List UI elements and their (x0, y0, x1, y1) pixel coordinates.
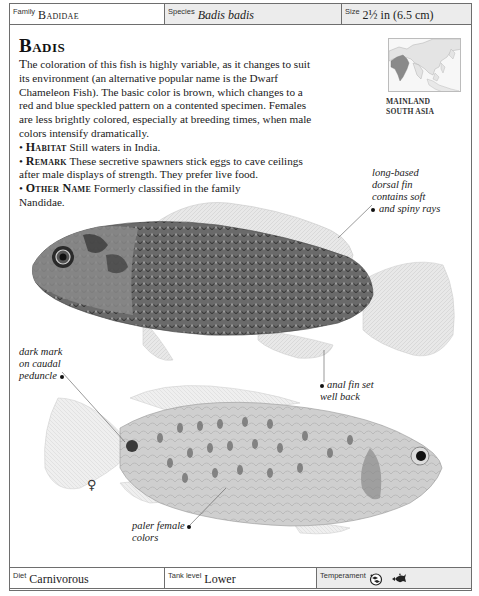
annotation-line: and spiny rays (372, 203, 440, 215)
temperament-icons (369, 573, 407, 586)
annotation-text: and spiny rays (379, 203, 440, 214)
annotation-line: well back (320, 391, 374, 403)
tank-level-label: Tank level (168, 571, 201, 580)
community-fish-icon (369, 573, 383, 586)
tank-level-cell: Tank level Lower (165, 568, 317, 588)
pointer-dot (371, 208, 375, 212)
annotation-dorsal-fin: long-based dorsal fin contains soft and … (372, 167, 440, 215)
annotation-text: anal fin set (327, 379, 374, 390)
annotation-female-colors: paler female colors (132, 520, 191, 544)
temperament-cell: Temperament (317, 568, 471, 588)
annotation-line: colors (132, 532, 191, 544)
tank-level-value: Lower (204, 572, 235, 587)
annotation-anal-fin: anal fin set well back (320, 379, 374, 403)
annotation-text: peduncle (19, 370, 57, 381)
temperament-label: Temperament (320, 571, 366, 580)
annotation-line: on caudal (19, 358, 64, 370)
annotation-leaders (0, 0, 479, 596)
annotation-line: long-based (372, 167, 440, 179)
annotation-line: paler female (132, 520, 191, 532)
territorial-fish-icon (391, 573, 407, 585)
annotation-caudal-mark: dark mark on caudal peduncle (19, 346, 64, 382)
female-symbol-icon: ♀ (87, 477, 97, 492)
footer-bar: Diet Carnivorous Tank level Lower Temper… (9, 567, 472, 589)
annotation-line: dorsal fin (372, 179, 440, 191)
pointer-dot (320, 384, 324, 388)
annotation-line: contains soft (372, 191, 440, 203)
pointer-dot (60, 375, 64, 379)
annotation-text: paler female (132, 520, 185, 531)
annotation-line: peduncle (19, 370, 64, 382)
annotation-line: dark mark (19, 346, 64, 358)
diet-cell: Diet Carnivorous (10, 568, 165, 588)
diet-label: Diet (13, 571, 26, 580)
diet-value: Carnivorous (29, 572, 88, 587)
annotation-line: anal fin set (320, 379, 374, 391)
pointer-dot (187, 525, 191, 529)
